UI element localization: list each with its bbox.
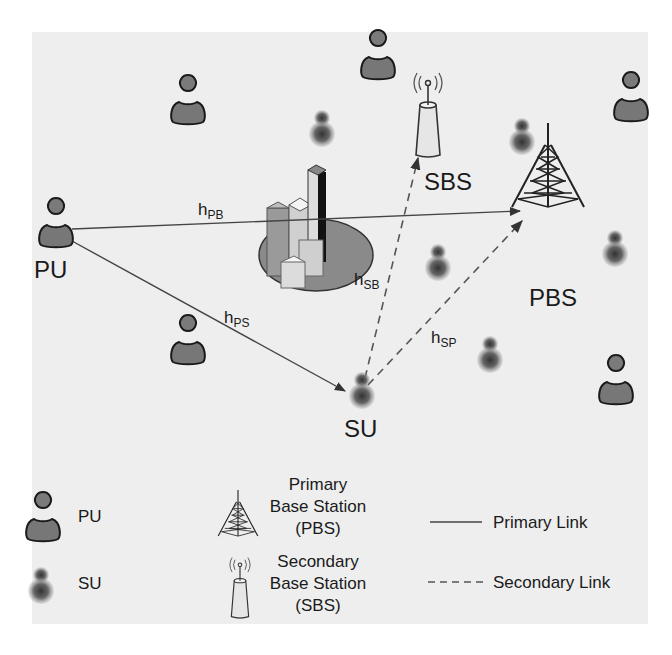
pu-icon (171, 75, 205, 124)
sbs-antenna-icon (414, 73, 442, 157)
legend-primary-link-label: Primary Link (493, 513, 588, 532)
cognitive-radio-network-diagram: hPB hPS hSB hSP PU SU SBS PBS PU SU Prim… (0, 0, 672, 655)
su-icon (477, 336, 503, 373)
legend-sbs-antenna-icon (230, 558, 250, 618)
legend-pu-label: PU (78, 507, 102, 526)
su-main-icon (349, 372, 375, 409)
legend-su-label: SU (78, 574, 102, 593)
su-icon (309, 110, 335, 147)
legend-sbs-line3: (SBS) (295, 596, 340, 615)
label-h-pb: hPB (198, 200, 223, 222)
label-h-sp: hSP (431, 328, 456, 350)
legend-pbs-line3: (PBS) (295, 519, 340, 538)
pu-icon (599, 355, 633, 404)
legend-sbs-line2: Base Station (270, 574, 366, 593)
legend-pbs-line1: Primary (289, 475, 348, 494)
link-h-sb (365, 158, 418, 378)
pu-main-icon (39, 198, 73, 247)
su-main-label: SU (344, 415, 377, 442)
pu-icon (614, 72, 648, 121)
pu-main-label: PU (34, 256, 67, 283)
pu-icon (171, 315, 205, 364)
su-icon (509, 118, 535, 155)
pbs-label: PBS (529, 284, 577, 311)
legend-pbs-tower-icon (218, 490, 258, 536)
legend-pu-icon (26, 492, 60, 541)
pu-icon (361, 30, 395, 79)
label-h-ps: hPS (224, 308, 249, 330)
legend-pbs-line2: Base Station (270, 497, 366, 516)
legend: PU SU Primary Base Station (PBS) Seconda… (26, 475, 610, 618)
sbs-label: SBS (424, 168, 472, 195)
legend-sbs-line1: Secondary (277, 552, 359, 571)
legend-secondary-link-label: Secondary Link (493, 573, 611, 592)
label-h-sb: hSB (354, 270, 379, 292)
su-icon (602, 230, 628, 267)
su-icon (425, 244, 451, 281)
legend-su-icon (28, 567, 54, 604)
